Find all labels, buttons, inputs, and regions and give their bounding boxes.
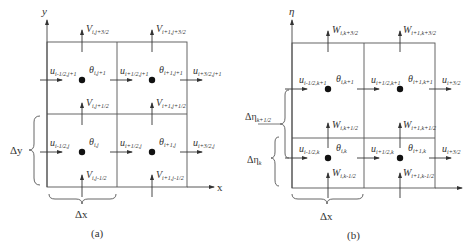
label-theta-upper-2: θi+1,j+1	[159, 64, 183, 76]
panel-b-u-arrows	[285, 89, 451, 158]
panel-a-x-axis-label: x	[217, 181, 223, 193]
label-w-top-right: Wi+1,k+3/2	[403, 24, 436, 36]
panel-a-grid	[47, 42, 187, 187]
dx-brace-b	[292, 194, 363, 204]
label-theta-lower-1: θi,j	[89, 136, 99, 148]
dx-label-a: Δx	[75, 208, 88, 220]
label-u-upper-1: ui-1/2,j+1	[50, 65, 77, 77]
panel-b-grid	[292, 43, 435, 188]
label-theta-upper-1: θi,j+1	[89, 64, 106, 76]
deta-upper-brace	[280, 90, 289, 158]
label-w-bottom-left: Wi,k-1/2	[332, 167, 356, 179]
label-u-upper-3: ui+3/2,j+1	[193, 65, 222, 77]
label-v-mid-right: Vi+1,j+1/2	[156, 97, 186, 109]
label-v-bottom-left: Vi,j-1/2	[86, 169, 107, 181]
label-u-lower-1: ui-1/2,j	[50, 137, 70, 149]
label-u-lower-3: ui+3/2,j	[193, 137, 215, 149]
label-b-u-lower-1: ui-1/2,k	[299, 143, 320, 155]
caption-a: (a)	[91, 227, 104, 240]
panel-a-axes	[47, 20, 214, 187]
caption-b: (b)	[347, 229, 360, 242]
label-u-upper-2: ui+1/2,j+1	[120, 65, 149, 77]
label-b-theta-lower-1: θi,k	[336, 142, 347, 154]
dy-brace	[29, 116, 40, 185]
staggered-grid-figure: y x Vi,j+3/2 Vi+1,j+3/2	[0, 0, 465, 246]
label-b-theta-lower-2: θi+1,k	[408, 142, 426, 154]
label-v-mid-left: Vi,j+1/2	[86, 97, 109, 109]
deta-upper-label: Δηk+1/2	[245, 111, 271, 123]
label-b-u-upper-1: ui-1/2,k+1	[299, 74, 327, 86]
panel-a-y-axis-label: y	[41, 5, 47, 17]
dx-brace-a	[49, 194, 116, 204]
label-v-bottom-right: Vi+1,j-1/2	[156, 169, 184, 181]
panel-b-axes	[292, 20, 462, 188]
label-b-theta-upper-2: θi+1,k+1	[408, 73, 433, 85]
label-v-top-left: Vi,j+3/2	[86, 23, 109, 35]
dy-label: Δy	[10, 144, 23, 156]
label-w-bottom-right: Wi+1,k-1/2	[403, 167, 434, 179]
label-b-u-lower-3: ui+3/2	[442, 143, 460, 155]
panel-a: y x Vi,j+3/2 Vi+1,j+3/2	[10, 5, 223, 240]
label-b-u-upper-2: ui+1/2,k+1	[371, 74, 401, 86]
label-theta-lower-2: θi+1,j	[159, 136, 176, 148]
deta-lower-label: Δηk	[247, 154, 262, 166]
label-v-top-right: Vi+1,j+3/2	[156, 23, 186, 35]
panel-b-eta-axis-label: η	[289, 5, 294, 17]
label-b-u-upper-3: ui+3/2	[442, 74, 460, 86]
panel-b: η Wi,k+3/2 Wi+1,k+3/2 ui-1/2,k+1	[245, 5, 462, 242]
dx-label-b: Δx	[320, 210, 333, 222]
label-u-lower-2: ui+1/2,j	[120, 137, 142, 149]
label-w-top-left: Wi,k+3/2	[332, 24, 358, 36]
label-b-theta-upper-1: θi,k+1	[336, 73, 354, 85]
label-w-mid-left: Wi,k+1/2	[332, 119, 358, 131]
deta-lower-brace	[271, 137, 279, 186]
label-w-mid-right: Wi+1,k+1/2	[403, 119, 436, 131]
label-b-u-lower-2: ui+1/2,k	[371, 143, 394, 155]
